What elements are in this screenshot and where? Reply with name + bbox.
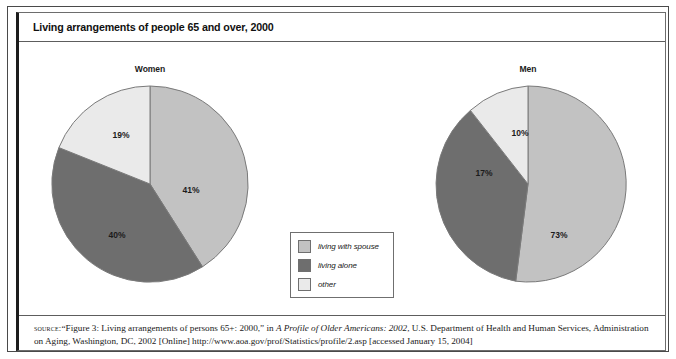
- panel-heading-men: Men: [483, 63, 573, 74]
- legend-swatch-living-alone: [298, 259, 311, 272]
- figure-title-band: Living arrangements of people 65 and ove…: [19, 13, 665, 41]
- legend-item-living-with-spouse: living with spouse: [298, 240, 379, 253]
- figure-title: Living arrangements of people 65 and ove…: [19, 21, 274, 33]
- source-text-a: “Figure 3: Living arrangements of person…: [61, 323, 275, 333]
- pie-women-label-alone: 40%: [108, 230, 125, 240]
- pie-men-svg: 73% 17% 10%: [428, 84, 628, 284]
- source-divider-rule: [19, 315, 665, 316]
- pie-chart-men: 73% 17% 10%: [428, 84, 628, 284]
- title-divider-rule: [19, 41, 665, 42]
- legend-swatch-other: [298, 278, 311, 291]
- pie-men-label-other: 10%: [511, 128, 528, 138]
- source-note: source:“Figure 3: Living arrangements of…: [34, 322, 650, 347]
- source-kicker: source:: [34, 323, 61, 333]
- pie-men-label-alone: 17%: [475, 168, 492, 178]
- pie-men-slice-spouse: [516, 86, 626, 282]
- pie-women-svg: 41% 40% 19%: [50, 84, 250, 284]
- legend: living with spouse living alone other: [290, 232, 394, 298]
- panel-heading-women: Women: [105, 63, 195, 74]
- legend-swatch-living-with-spouse: [298, 240, 311, 253]
- legend-label-living-with-spouse: living with spouse: [318, 242, 379, 251]
- legend-item-other: other: [298, 278, 336, 291]
- pie-chart-women: 41% 40% 19%: [50, 84, 250, 284]
- figure-container: Living arrangements of people 65 and ove…: [0, 0, 676, 359]
- legend-item-living-alone: living alone: [298, 259, 357, 272]
- legend-label-living-alone: living alone: [318, 261, 357, 270]
- source-publication-title: A Profile of Older Americans: 2002: [276, 323, 407, 333]
- pie-women-label-spouse: 41%: [182, 185, 199, 195]
- pie-men-label-spouse: 73%: [550, 230, 567, 240]
- legend-label-other: other: [318, 280, 336, 289]
- pie-women-label-other: 19%: [112, 130, 129, 140]
